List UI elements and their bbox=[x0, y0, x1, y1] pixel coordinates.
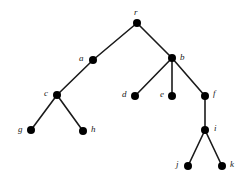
tree-node-label-f: f bbox=[213, 89, 216, 98]
tree-node-k bbox=[218, 162, 226, 170]
tree-edge-i-j bbox=[188, 130, 205, 166]
tree-edge-r-a bbox=[93, 23, 137, 60]
tree-edge-r-b bbox=[137, 23, 172, 58]
tree-node-label-e: e bbox=[160, 90, 164, 99]
tree-node-label-b: b bbox=[180, 53, 185, 62]
tree-node-label-g: g bbox=[18, 125, 23, 134]
tree-node-label-c: c bbox=[44, 89, 48, 98]
tree-edge-c-g bbox=[31, 95, 57, 130]
tree-edge-b-f bbox=[172, 58, 205, 96]
tree-node-c bbox=[53, 91, 61, 99]
tree-node-d bbox=[131, 92, 139, 100]
tree-node-h bbox=[79, 127, 87, 135]
tree-node-label-r: r bbox=[134, 8, 138, 17]
tree-node-label-j: j bbox=[176, 160, 179, 169]
tree-node-label-d: d bbox=[122, 90, 127, 99]
tree-edge-c-h bbox=[57, 95, 83, 131]
tree-node-g bbox=[27, 126, 35, 134]
tree-edge-a-c bbox=[57, 60, 93, 95]
tree-node-e bbox=[168, 92, 176, 100]
tree-node-a bbox=[89, 56, 97, 64]
tree-edge-i-k bbox=[205, 130, 222, 166]
tree-node-label-h: h bbox=[91, 125, 96, 134]
tree-node-j bbox=[184, 162, 192, 170]
tree-node-label-i: i bbox=[214, 124, 217, 133]
tree-node-b bbox=[168, 54, 176, 62]
tree-node-i bbox=[201, 126, 209, 134]
tree-node-label-a: a bbox=[79, 54, 84, 63]
tree-node-r bbox=[133, 19, 141, 27]
tree-node-f bbox=[201, 92, 209, 100]
tree-diagram: rabcdefghijk bbox=[0, 0, 250, 181]
tree-node-label-k: k bbox=[230, 160, 234, 169]
tree-edge-b-d bbox=[135, 58, 172, 96]
